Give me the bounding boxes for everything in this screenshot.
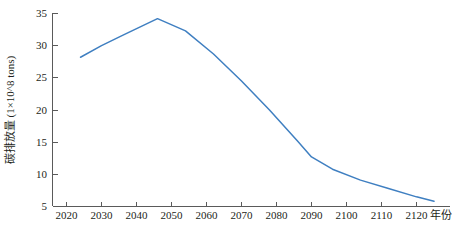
x-tick-label-2100: 2100 (336, 209, 359, 221)
y-tick-labels: 35 30 25 20 15 10 5 (36, 7, 48, 212)
x-tick-label-2050: 2050 (161, 209, 184, 221)
x-tick-label-2090: 2090 (301, 209, 324, 221)
chart-figure: 35 30 25 20 15 10 5 碳排放量 (1×10^8 tons) (0, 0, 454, 243)
y-tick-marks (53, 14, 58, 207)
x-tick-labels: 2020 2030 2040 2050 2060 2070 2080 2090 … (56, 209, 429, 221)
x-tick-label-2080: 2080 (266, 209, 289, 221)
y-tick-label-30: 30 (36, 39, 48, 51)
y-tick-label-35: 35 (36, 7, 48, 19)
x-tick-label-2110: 2110 (371, 209, 393, 221)
x-tick-label-2040: 2040 (126, 209, 149, 221)
x-axis-title: 年份 (430, 208, 452, 221)
x-tick-label-2070: 2070 (231, 209, 254, 221)
x-tick-label-2030: 2030 (91, 209, 114, 221)
y-axis-title: 碳排放量 (1×10^8 tons) (3, 55, 17, 164)
x-tick-marks (67, 202, 417, 207)
x-tick-label-2120: 2120 (406, 209, 429, 221)
y-tick-label-15: 15 (36, 136, 48, 148)
y-tick-label-25: 25 (36, 71, 48, 83)
x-tick-label-2020: 2020 (56, 209, 79, 221)
data-line-carbon-emissions (81, 19, 435, 202)
series-group (81, 19, 435, 202)
x-axis-group: 2020 2030 2040 2050 2060 2070 2080 2090 … (53, 202, 453, 222)
y-tick-label-20: 20 (36, 104, 48, 116)
y-tick-label-10: 10 (36, 168, 48, 180)
y-tick-label-5: 5 (42, 200, 48, 212)
x-tick-label-2060: 2060 (196, 209, 219, 221)
line-chart: 35 30 25 20 15 10 5 碳排放量 (1×10^8 tons) (0, 0, 454, 243)
y-axis-group: 35 30 25 20 15 10 5 碳排放量 (1×10^8 tons) (3, 7, 58, 212)
